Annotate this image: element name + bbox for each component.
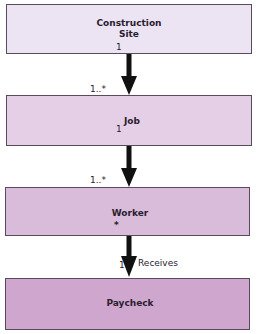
association-arrow-worker-paycheck (121, 236, 137, 278)
worker-top-multiplicity: 1..* (90, 175, 106, 185)
worker-bottom-multiplicity: * (114, 220, 119, 230)
job-label: Job (122, 116, 142, 127)
job-bottom-multiplicity: 1 (116, 124, 122, 134)
job-top-multiplicity: 1..* (90, 84, 106, 94)
association-arrow-site-job (121, 54, 137, 96)
worker-label: Worker (100, 208, 160, 219)
paycheck-label: Paycheck (90, 298, 170, 309)
construction-site-label: Construction Site (6, 18, 252, 40)
construction-site-label-line2: Site (119, 29, 139, 39)
construction-site-label-line1: Construction (96, 18, 161, 28)
receives-association-label: Receives (138, 258, 178, 268)
construction-site-multiplicity: 1 (116, 42, 122, 52)
association-arrow-job-worker (121, 146, 137, 188)
paycheck-top-multiplicity: 1 (119, 260, 125, 270)
